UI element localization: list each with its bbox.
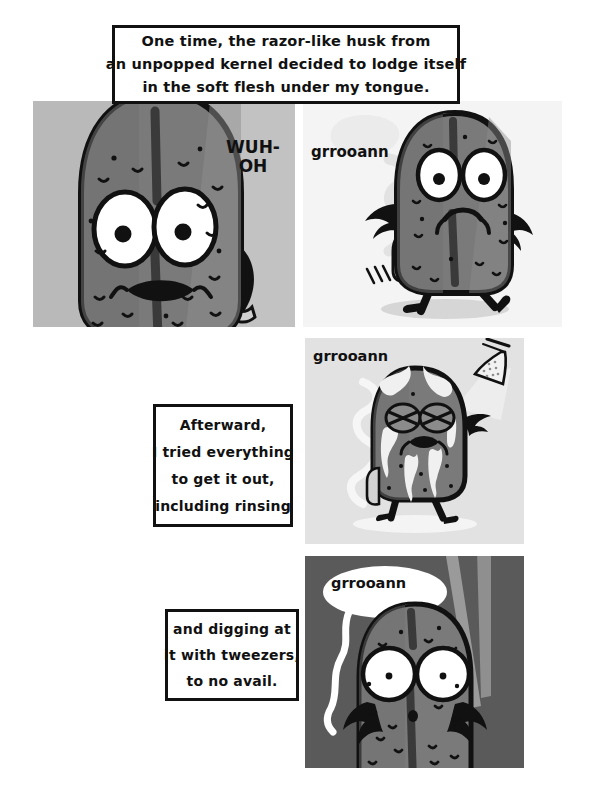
caption-1-line-1: One time, the razor-like husk from xyxy=(142,30,431,53)
caption-2-line-2: I tried everything xyxy=(152,439,294,466)
caption-1-line-2: an unpopped kernel decided to lodge itse… xyxy=(106,53,467,76)
sound-effect-groan-panel-2: grrooann xyxy=(311,143,389,161)
caption-3-line-2: it with tweezers, xyxy=(164,642,300,668)
caption-1-line-3: in the soft flesh under my tongue. xyxy=(142,76,429,99)
caption-2-line-4: including rinsing xyxy=(155,493,291,520)
caption-box-3: and digging at it with tweezers, to no a… xyxy=(165,609,299,701)
caption-3-line-1: and digging at xyxy=(173,616,291,642)
panel-1-artwork xyxy=(33,101,295,327)
comic-page: One time, the razor-like husk from an un… xyxy=(0,0,596,794)
sound-effect-groan-panel-3: grrooann xyxy=(313,348,388,364)
sfx-wuhoh-line-1: WUH- xyxy=(222,138,284,157)
caption-2-line-3: to get it out, xyxy=(171,466,274,493)
panel-2-artwork xyxy=(303,101,562,327)
sound-effect-groan-panel-4: grrooann xyxy=(331,575,406,591)
caption-box-2: Afterward, I tried everything to get it … xyxy=(153,404,293,527)
comic-panel-3 xyxy=(305,338,524,544)
sound-effect-wuh-oh: WUH- OH xyxy=(222,138,284,176)
caption-3-line-3: to no avail. xyxy=(187,668,278,694)
panel-3-artwork xyxy=(305,338,524,544)
comic-panel-1 xyxy=(33,101,295,327)
comic-panel-2 xyxy=(303,101,562,327)
sfx-wuhoh-line-2: OH xyxy=(222,157,284,176)
caption-box-1: One time, the razor-like husk from an un… xyxy=(112,25,460,104)
caption-2-line-1: Afterward, xyxy=(180,412,267,439)
